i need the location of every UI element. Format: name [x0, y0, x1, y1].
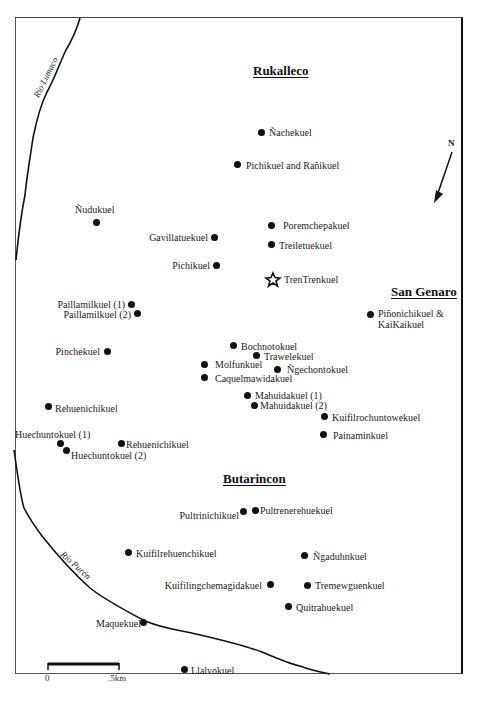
north-label: N [448, 138, 455, 148]
site-label: Huechuntokuel (2) [71, 450, 146, 461]
site-label: Painaminkuel [333, 430, 388, 441]
scale-end-label: .5km [108, 673, 126, 683]
site-dot [213, 262, 220, 269]
river-lumaco [16, 18, 80, 260]
site-label: Ñgechontokuel [287, 364, 348, 375]
site-dot [104, 348, 111, 355]
site-dot [93, 219, 100, 226]
site-label: Pinchekuel [56, 346, 100, 357]
site-label: Pichikuel and Rañikuel [246, 160, 339, 171]
site-label: Huechuntokuel (1) [15, 429, 90, 440]
site-dot [258, 129, 265, 136]
site-dot [301, 552, 308, 559]
site-label: Rehuenichikuel [55, 403, 118, 414]
settlement-map: Rukalleco San Genaro Butarincon Río Luma… [0, 0, 483, 701]
site-label: Mahuidakuel (2) [260, 400, 327, 411]
site-label: Kuifilrehuenchikuel [136, 548, 217, 559]
site-label: Pichikuel [172, 260, 210, 271]
site-label: Trawelekuel [264, 351, 314, 362]
site-label: Pultrenerehuekuel [260, 505, 333, 516]
site-dot [201, 361, 208, 368]
site-dot [125, 549, 132, 556]
site-label: Pultrinichikuel [180, 510, 239, 521]
site-dot [63, 447, 70, 454]
site-dot [367, 311, 374, 318]
site-dot [140, 619, 147, 626]
site-dot [57, 440, 64, 447]
region-butarincon: Butarincon [223, 471, 286, 487]
site-dot [320, 431, 327, 438]
site-dot [267, 581, 274, 588]
site-dot [118, 440, 125, 447]
site-label: Ñudukuel [75, 204, 114, 215]
site-dot [268, 222, 275, 229]
site-label: Maquekuel [96, 618, 141, 629]
site-label: Quitrahuekuel [296, 602, 353, 613]
scale-start-label: 0 [45, 673, 50, 683]
site-dot [240, 508, 247, 515]
site-label: Caquelmawidakuel [215, 373, 292, 384]
site-dot [252, 507, 259, 514]
site-dot [181, 666, 188, 673]
scale-bar [48, 663, 119, 670]
site-dot [128, 301, 135, 308]
site-label: Ñgaduhnkuel [313, 551, 367, 562]
site-dot [234, 161, 241, 168]
site-dot [253, 352, 260, 359]
site-dot [211, 234, 218, 241]
site-label: Rehuenichikuel [126, 439, 189, 450]
site-label: Paillamilkuel (2) [64, 309, 132, 320]
site-dot [45, 403, 52, 410]
site-label: TrenTrenkuel [284, 274, 338, 285]
site-label: Molfunkuel [215, 359, 262, 370]
site-label: Treiletuekuel [279, 240, 332, 251]
site-dot [251, 402, 258, 409]
site-dot [230, 342, 237, 349]
site-dot [201, 374, 208, 381]
star-icon [266, 273, 280, 286]
site-label: Tremewguenkuel [315, 580, 385, 591]
site-label: Kuifilingchemagidakuel [165, 580, 262, 591]
site-label: Llalvokuel [191, 665, 234, 676]
site-label: Kuifilrochuntowekuel [332, 412, 420, 423]
north-arrow-icon [434, 152, 452, 203]
site-label: Piñonichikuel & KaiKaikuel [378, 308, 468, 330]
site-dot [285, 603, 292, 610]
site-dot [244, 392, 251, 399]
site-label: Ñachekuel [269, 127, 312, 138]
region-san-genaro: San Genaro [391, 284, 457, 300]
site-label: Poremchepakuel [283, 220, 350, 231]
site-dot [321, 413, 328, 420]
site-dot [274, 366, 281, 373]
site-dot [304, 582, 311, 589]
site-dot [268, 241, 275, 248]
site-label: Gavillatuekuel [149, 232, 208, 243]
region-rukalleco: Rukalleco [253, 63, 309, 79]
site-dot [134, 310, 141, 317]
